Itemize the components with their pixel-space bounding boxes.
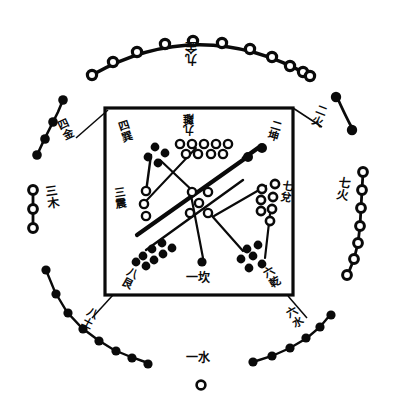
inner-palace-north-label: 一坎: [186, 272, 210, 284]
outer-arc-top: [87, 36, 314, 80]
inner-palace-east-label: 三震: [113, 185, 127, 208]
inner-dots-northwest-6: [237, 241, 267, 273]
diagram-svg: [0, 0, 400, 408]
outer-arc-bottom-left-dots: [41, 265, 152, 368]
outer-arc-left-label: 三木: [43, 183, 58, 208]
outer-arc-bottom-label: 一水: [186, 352, 210, 364]
outer-arc-top-dots: [87, 36, 314, 80]
inner-dots-south-9: [176, 140, 232, 158]
outer-arc-top-label: 九金: [186, 42, 198, 66]
outer-arc-bottom-left: [41, 265, 152, 368]
inner-palace-west-label: 七兌: [279, 179, 294, 203]
inner-dots-west-7: [257, 180, 279, 225]
inner-dots-north-1: [197, 257, 206, 266]
luoshu-diagram-canvas: 九金 四金 二火 三木 七火 八土 六水 一水 九離 四巽 二坤 三震 七兌 一…: [0, 0, 400, 408]
inner-palace-south-label: 九離: [184, 114, 195, 136]
outer-arc-bottom-dot: [197, 381, 206, 390]
outer-arc-left: [29, 186, 38, 233]
outer-arc-top-right: [331, 92, 357, 135]
inner-dots-southeast-4: [144, 143, 170, 168]
leader-line-top-left: [76, 110, 108, 138]
outer-arc-bottom: [197, 381, 206, 390]
outer-arc-left-dots: [29, 186, 38, 233]
line-center-to-northwest: [212, 216, 243, 251]
inner-dots-east-3: [140, 187, 150, 220]
